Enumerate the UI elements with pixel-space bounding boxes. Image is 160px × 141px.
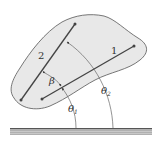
theta1-label: θ1 [68, 103, 78, 115]
ground-hatching [10, 129, 152, 135]
line-1-endpoint-left [41, 98, 44, 101]
theta2-label: θ2 [101, 85, 111, 97]
rigid-body-shape [11, 15, 146, 109]
line-2-endpoint-top [74, 23, 77, 26]
beta-label: β [48, 75, 55, 86]
rigid-body-diagram: 2 1 β θ1 θ2 [0, 0, 160, 141]
line-2-endpoint-bottom [20, 99, 23, 102]
line-1-endpoint-right [133, 45, 136, 48]
line-2-label: 2 [38, 50, 44, 61]
line-1-label: 1 [111, 45, 117, 56]
